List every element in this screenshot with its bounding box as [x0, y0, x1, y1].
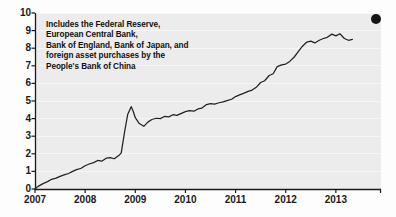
y-tick-label: 0: [5, 184, 31, 194]
annotation-line: Bank of England, Bank of Japan, and: [46, 41, 188, 51]
annotation-line: People's Bank of China: [46, 62, 188, 72]
y-tick-label: 5: [5, 96, 31, 106]
annotation-scope-note: Includes the Federal Reserve,European Ce…: [46, 20, 188, 72]
x-tick-label: 2009: [115, 195, 155, 205]
y-tick-marks: [32, 13, 36, 189]
x-tick-label: 2013: [316, 195, 356, 205]
annotation-line: foreign asset purchases by the: [46, 51, 188, 61]
y-tick-label: 8: [5, 43, 31, 53]
y-tick-label: 2: [5, 149, 31, 159]
annotation-line: Includes the Federal Reserve,: [46, 20, 188, 30]
y-tick-label: 9: [5, 26, 31, 36]
x-tick-label: 2010: [165, 195, 205, 205]
x-tick-label: 2008: [65, 195, 105, 205]
y-tick-label: 4: [5, 114, 31, 124]
y-tick-label: 7: [5, 61, 31, 71]
y-tick-label: 10: [5, 8, 31, 18]
y-tick-label: 6: [5, 78, 31, 88]
x-tick-label: 2012: [266, 195, 306, 205]
x-tick-label: 2011: [216, 195, 256, 205]
x-tick-label: 2007: [15, 195, 55, 205]
y-tick-label: 3: [5, 131, 31, 141]
annotation-line: European Central Bank,: [46, 30, 188, 40]
y-tick-label: 1: [5, 166, 31, 176]
chart-container: 012345678910 200720082009201020112012201…: [0, 0, 396, 217]
